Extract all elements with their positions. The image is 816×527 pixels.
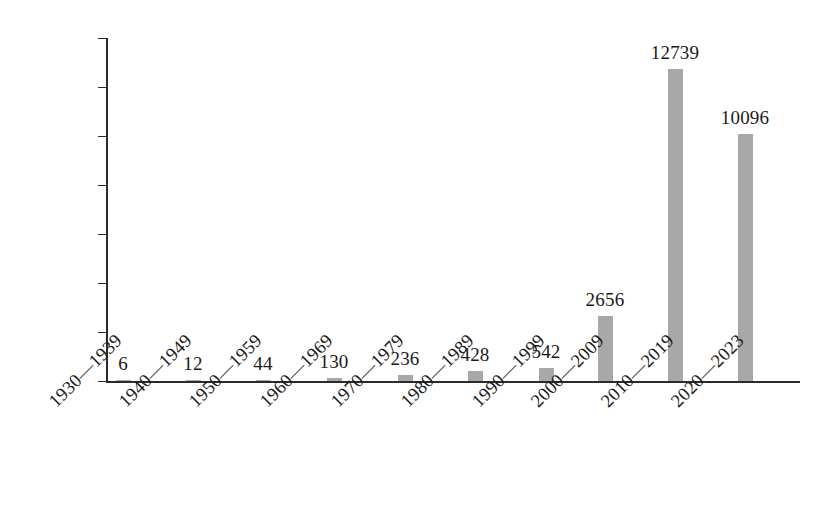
y-axis-tick-mark <box>98 185 106 186</box>
bar-column: 12739 <box>668 38 683 381</box>
bar <box>468 371 483 381</box>
bars-layer: 6124413023642854226561273910096 <box>106 38 800 381</box>
bar-column: 542 <box>539 38 554 381</box>
y-axis-tick-mark <box>98 283 106 284</box>
x-axis-category-labels: 1930—19391940—19491950—19591960—19691970… <box>106 383 800 527</box>
bar-column: 2656 <box>598 38 613 381</box>
y-axis-tick-mark <box>98 381 106 382</box>
bar <box>116 380 131 381</box>
bar-value-label: 12739 <box>651 42 700 64</box>
bar-value-label: 44 <box>253 353 272 375</box>
bar-column: 10096 <box>738 38 753 381</box>
bar-value-label: 10096 <box>721 107 770 129</box>
bar <box>327 378 342 381</box>
bar <box>668 69 683 381</box>
y-axis-tick-mark <box>98 87 106 88</box>
bar-value-label: 6 <box>118 353 128 375</box>
y-axis-tick-mark <box>98 332 106 333</box>
bar-column: 12 <box>186 38 201 381</box>
bar <box>256 380 271 381</box>
bar <box>186 380 201 381</box>
bar-value-label: 2656 <box>586 289 625 311</box>
bar-column: 44 <box>256 38 271 381</box>
y-axis-tick-mark <box>98 234 106 235</box>
bar-chart: 02000400060008000100001200014000 6124413… <box>0 0 816 527</box>
bar-column: 428 <box>468 38 483 381</box>
bar-column: 130 <box>327 38 342 381</box>
bar-value-label: 12 <box>183 353 202 375</box>
y-axis-tick-mark <box>98 38 106 39</box>
bar-column: 236 <box>398 38 413 381</box>
bar-column: 6 <box>116 38 131 381</box>
y-axis-tick-mark <box>98 136 106 137</box>
bar <box>398 375 413 381</box>
